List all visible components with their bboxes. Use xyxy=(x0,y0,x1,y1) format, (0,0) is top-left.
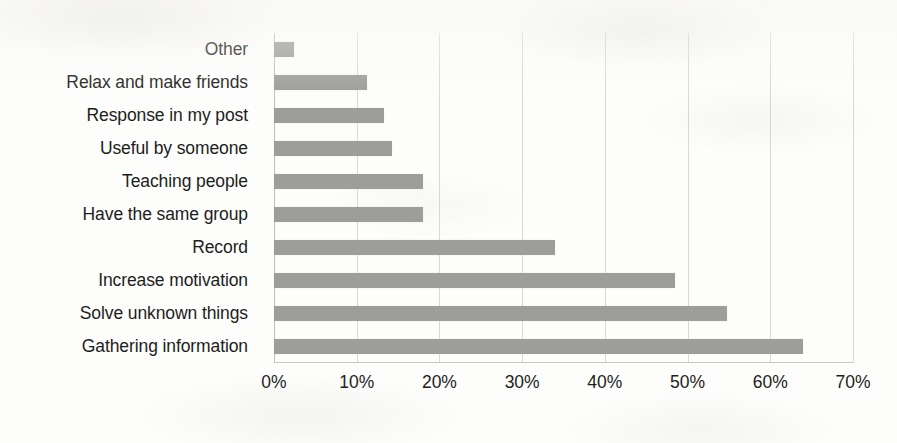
x-axis-tick-label: 40% xyxy=(587,372,622,393)
x-axis-tick-label: 30% xyxy=(505,372,540,393)
bar-slot xyxy=(274,264,853,297)
category-label: Have the same group xyxy=(0,198,258,231)
x-axis-tick-label: 10% xyxy=(339,372,374,393)
bar-series xyxy=(274,33,853,363)
category-label: Relax and make friends xyxy=(0,66,258,99)
bar xyxy=(274,240,555,255)
bar-slot xyxy=(274,297,853,330)
category-label: Response in my post xyxy=(0,99,258,132)
x-axis-tick-label: 50% xyxy=(670,372,705,393)
x-axis-tick-label: 70% xyxy=(835,372,870,393)
bar-slot xyxy=(274,231,853,264)
category-axis-labels: OtherRelax and make friendsResponse in m… xyxy=(0,33,258,363)
gridline xyxy=(853,33,854,363)
category-label: Gathering information xyxy=(0,330,258,363)
x-axis-tick-label: 60% xyxy=(753,372,788,393)
bar xyxy=(274,273,675,288)
horizontal-bar-chart: OtherRelax and make friendsResponse in m… xyxy=(0,0,897,443)
category-label: Useful by someone xyxy=(0,132,258,165)
category-label: Record xyxy=(0,231,258,264)
bar xyxy=(274,42,294,57)
bar-slot xyxy=(274,99,853,132)
bar-slot xyxy=(274,33,853,66)
bar xyxy=(274,75,367,90)
bar-slot xyxy=(274,330,853,363)
bar xyxy=(274,339,803,354)
bar-slot xyxy=(274,66,853,99)
bar xyxy=(274,306,727,321)
bar xyxy=(274,108,384,123)
bar xyxy=(274,174,423,189)
category-label: Teaching people xyxy=(0,165,258,198)
bar xyxy=(274,141,392,156)
category-label: Other xyxy=(0,33,258,66)
category-label: Increase motivation xyxy=(0,264,258,297)
plot-area xyxy=(274,33,853,363)
bar-slot xyxy=(274,198,853,231)
x-axis-tick-label: 0% xyxy=(261,372,286,393)
x-axis-tick-label: 20% xyxy=(422,372,457,393)
bar-slot xyxy=(274,165,853,198)
category-label: Solve unknown things xyxy=(0,297,258,330)
x-axis-tick-labels: 0%10%20%30%40%50%60%70% xyxy=(274,372,853,398)
bar xyxy=(274,207,423,222)
bar-slot xyxy=(274,132,853,165)
